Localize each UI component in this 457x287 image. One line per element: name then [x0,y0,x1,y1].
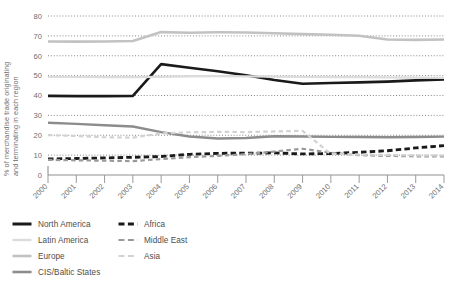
legend-item-africa[interactable]: Africa [118,216,187,232]
legend-item-europe[interactable]: Europe [12,248,100,264]
legend-column-right: AfricaMiddle EastAsia [118,216,187,264]
x-axis-tick-label: 2004 [144,182,162,200]
series-line-north-america [48,64,444,96]
y-axis-tick-label: 0 [38,171,42,180]
x-axis-tick-label: 2005 [173,182,191,200]
legend-swatch-icon [12,235,32,245]
legend-item-label: Middle East [144,236,187,245]
x-axis-tick-label: 2001 [59,182,77,200]
x-axis-tick-label: 2009 [286,182,304,200]
x-axis-tick-label: 2000 [31,182,49,200]
legend-swatch-icon [118,235,138,245]
x-axis-tick-label: 2011 [343,182,361,200]
legend-item-label: Africa [144,220,165,229]
series-line-europe [48,32,444,42]
legend-swatch-icon [118,219,138,229]
legend-item-label: Europe [38,252,65,261]
chart-container: % of merchandise trade originating and t… [0,0,457,287]
y-axis-tick-label: 80 [34,12,42,21]
y-axis-tick-label: 10 [34,151,42,160]
y-axis-tick-label: 40 [34,91,42,100]
x-axis-tick-label: 2002 [88,182,106,200]
x-axis-tick-label: 2012 [371,182,389,200]
legend-swatch-icon [118,251,138,261]
y-axis-tick-label: 50 [34,71,42,80]
chart-legend: North AmericaLatin AmericaEuropeCIS/Balt… [12,216,242,282]
legend-swatch-icon [12,251,32,261]
legend-item-latin-america[interactable]: Latin America [12,232,100,248]
x-axis-tick-label: 2007 [229,182,247,200]
legend-item-cis-baltic-states[interactable]: CIS/Baltic States [12,264,100,280]
legend-item-asia[interactable]: Asia [118,248,187,264]
legend-item-label: Asia [144,252,160,261]
legend-swatch-icon [12,219,32,229]
x-axis-tick-label: 2003 [116,182,134,200]
series-line-latin-america [48,76,444,78]
legend-item-middle-east[interactable]: Middle East [118,232,187,248]
legend-item-label: North America [38,220,91,229]
y-axis-tick-label: 70 [34,32,42,41]
x-axis-tick-label: 2008 [257,182,275,200]
x-axis-tick-label: 2006 [201,182,219,200]
y-axis-tick-label: 60 [34,52,42,61]
legend-column-left: North AmericaLatin AmericaEuropeCIS/Balt… [12,216,100,280]
legend-item-label: CIS/Baltic States [38,268,100,277]
y-axis-tick-label: 30 [34,111,42,120]
x-axis-tick-label: 2014 [427,182,445,200]
series-line-asia [48,131,444,156]
legend-swatch-icon [12,267,32,277]
series-line-africa [48,146,444,159]
series-line-cis-baltic-states [48,123,444,139]
x-axis-tick-label: 2010 [314,182,332,200]
legend-item-north-america[interactable]: North America [12,216,100,232]
y-axis-tick-label: 20 [34,131,42,140]
legend-item-label: Latin America [38,236,88,245]
x-axis-tick-label: 2013 [399,182,417,200]
cropped-caption-text [14,281,254,287]
